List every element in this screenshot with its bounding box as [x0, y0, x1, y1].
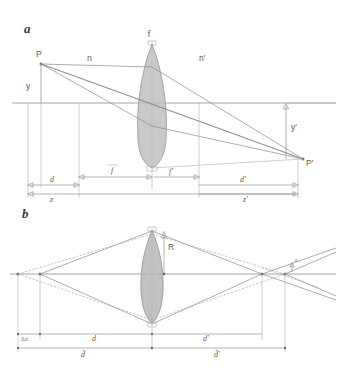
dim-b-object-distance-bar-label: d̄	[81, 350, 86, 359]
index-n-prime-label: n'	[199, 53, 206, 63]
dim-b-image-distance-label: d'	[203, 334, 209, 343]
dim-back-focal-label: f'	[169, 167, 173, 176]
dim-object-distance-label: d	[50, 175, 55, 184]
panel-a: a f P P' n n' y	[12, 21, 336, 204]
image-height-label: y'	[291, 122, 297, 132]
dim-b-object-distance-label: d	[92, 334, 97, 343]
object-height-label: y	[26, 81, 31, 91]
ray-b-upper-out-dashed	[152, 234, 285, 274]
blur-spot-label: ε	[295, 257, 298, 263]
object-point-label: P	[36, 49, 42, 59]
dim-newton-image-label: z'	[242, 195, 248, 204]
dim-b-object-distance	[40, 333, 153, 335]
panel-b-label: b	[22, 206, 29, 221]
dim-front-focal-label: f	[111, 166, 115, 175]
dim-newton-object-label: z	[49, 195, 54, 204]
ray-b-blur-upper-right	[262, 248, 336, 274]
ray-b-upper-out	[152, 231, 262, 274]
dim-b-image-distance-bar-label: d̄'	[214, 350, 220, 359]
ray-b-lower-out-dashed	[152, 274, 285, 320]
panel-b: b R	[10, 206, 336, 359]
dim-front-focal	[79, 175, 153, 180]
ray-parallel-out	[152, 67, 303, 159]
ray-focal-in	[41, 64, 152, 126]
image-point-label: P'	[306, 158, 314, 168]
panel-a-label: a	[24, 21, 31, 36]
ray-b-upper-in	[40, 231, 152, 274]
dim-b-object-distance-bar	[17, 347, 153, 349]
ray-b-lower-out	[152, 274, 262, 324]
ray-lower-edge	[152, 159, 303, 168]
dim-back-focal	[154, 175, 200, 180]
optics-figure: a f P P' n n' y	[0, 0, 346, 370]
ray-b-blur-lower-right	[262, 274, 336, 300]
ray-focal-out	[152, 126, 303, 159]
dim-image-distance-label: d'	[240, 175, 246, 184]
index-n-label: n	[87, 53, 92, 63]
lens-marker-label-a: f	[148, 29, 151, 39]
dim-defocus-shift	[17, 333, 41, 335]
dim-image-distance	[199, 183, 299, 188]
ray-b-lower-in	[40, 274, 152, 324]
ray-construction	[41, 64, 303, 159]
lens-element-a	[138, 44, 167, 168]
dim-defocus-shift-label: Δd	[21, 336, 28, 342]
ray-b-lower-in-dashed	[18, 274, 152, 320]
ray-b-upper-in-dashed	[18, 234, 152, 274]
dim-b-image-distance-bar	[152, 347, 286, 349]
ray-parallel-in	[41, 64, 152, 67]
lens-element-b	[141, 230, 163, 323]
aperture-radius-label: R	[168, 242, 174, 252]
